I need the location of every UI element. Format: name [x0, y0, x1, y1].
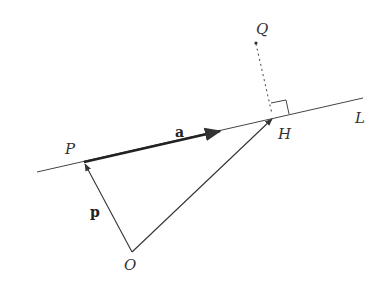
vector-OH [132, 119, 272, 252]
label-a: a [175, 124, 184, 140]
vector-a [84, 131, 220, 162]
right-angle-mark [271, 100, 289, 114]
label-H: H [277, 125, 292, 143]
label-L: L [354, 109, 365, 127]
label-p: p [90, 204, 100, 220]
label-P: P [64, 140, 76, 158]
point-Q [254, 41, 257, 44]
label-O: O [124, 256, 136, 274]
perpendicular-QH [256, 44, 272, 114]
vector-diagram: Q P H L O a p [0, 0, 388, 287]
label-Q: Q [256, 20, 268, 38]
